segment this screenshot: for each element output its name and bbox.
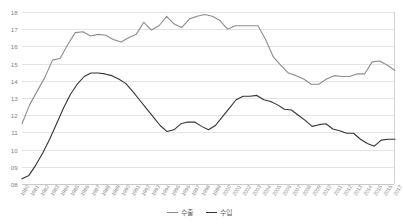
- x-tick-label: 1995: [170, 184, 181, 197]
- x-tick-label: 2006: [281, 184, 292, 197]
- x-tick-label: 2000: [221, 184, 232, 197]
- x-tick-label: 2015: [372, 184, 383, 197]
- chart-legend: 수출수입: [0, 203, 399, 221]
- y-tick-label: 12: [11, 112, 18, 119]
- series-line-수입: [22, 73, 395, 179]
- y-tick-label: 08: [11, 181, 18, 188]
- x-tick-label: 2012: [342, 184, 353, 197]
- x-tick-label: 2017: [392, 184, 403, 197]
- plot-area: [22, 12, 395, 184]
- x-tick-label: 1999: [210, 184, 221, 197]
- x-tick-label: 1986: [79, 184, 90, 197]
- x-tick-label: 1984: [59, 184, 70, 197]
- x-tick-label: 1996: [180, 184, 191, 197]
- x-tick-label: 2010: [321, 184, 332, 197]
- legend-label: 수출: [181, 207, 193, 217]
- y-tick-label: 15: [11, 60, 18, 67]
- x-tick-label: 1980: [19, 184, 30, 197]
- legend-entry[interactable]: 수출: [167, 207, 193, 217]
- x-tick-label: 1992: [140, 184, 151, 197]
- legend-label: 수입: [220, 207, 232, 217]
- x-tick-label: 2005: [271, 184, 282, 197]
- y-tick-label: 13: [11, 95, 18, 102]
- y-tick-label: 17: [11, 26, 18, 33]
- x-tick-label: 2007: [291, 184, 302, 197]
- x-tick-label: 1987: [90, 184, 101, 197]
- x-tick-label: 2002: [241, 184, 252, 197]
- y-axis: 0809101112131415161718: [0, 12, 20, 184]
- y-tick-label: 18: [11, 9, 18, 16]
- x-tick-label: 1997: [190, 184, 201, 197]
- legend-line-icon: [167, 212, 178, 213]
- legend-line-icon: [206, 212, 217, 213]
- x-tick-label: 2008: [301, 184, 312, 197]
- x-tick-label: 1998: [200, 184, 211, 197]
- x-tick-label: 2013: [352, 184, 363, 197]
- x-tick-label: 1990: [120, 184, 131, 197]
- x-tick-label: 2016: [382, 184, 393, 197]
- x-tick-label: 1983: [49, 184, 60, 197]
- x-tick-label: 1994: [160, 184, 171, 197]
- x-tick-label: 1988: [100, 184, 111, 197]
- x-tick-label: 2009: [311, 184, 322, 197]
- x-tick-label: 1991: [130, 184, 141, 197]
- y-tick-label: 14: [11, 77, 18, 84]
- x-tick-label: 1982: [39, 184, 50, 197]
- x-tick-label: 2011: [332, 184, 343, 197]
- series-line-수출: [22, 15, 395, 124]
- x-tick-label: 2014: [362, 184, 373, 197]
- y-tick-label: 11: [11, 129, 18, 136]
- x-tick-label: 2004: [261, 184, 272, 197]
- x-tick-label: 1985: [69, 184, 80, 197]
- x-tick-label: 2003: [251, 184, 262, 197]
- y-tick-label: 16: [11, 43, 18, 50]
- x-tick-label: 1993: [150, 184, 161, 197]
- x-tick-label: 2001: [231, 184, 242, 197]
- series-layer: [22, 12, 395, 184]
- x-tick-label: 1981: [29, 184, 40, 197]
- x-tick-label: 1989: [110, 184, 121, 197]
- y-tick-label: 10: [11, 146, 18, 153]
- legend-entry[interactable]: 수입: [206, 207, 232, 217]
- y-tick-label: 09: [11, 163, 18, 170]
